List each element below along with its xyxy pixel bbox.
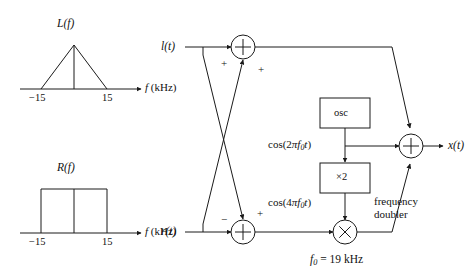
doubler-caption-line2: doubler — [374, 209, 408, 220]
plot-right-tick-min: −15 — [29, 237, 45, 248]
pilot-carrier-label: cos(2πf0t) — [268, 139, 311, 152]
plot-left-tick-max: 15 — [102, 93, 113, 104]
signal-label-right-input: r(t) — [161, 226, 176, 238]
frequency-note: f0 = 19 kHz — [310, 254, 363, 268]
signal-label-output: x(t) — [448, 140, 464, 152]
plot-left-axes — [20, 45, 141, 89]
adder-top-circle — [231, 35, 255, 59]
doubler-caption-line1: frequency — [374, 196, 418, 207]
plot-left-title: L(f) — [57, 18, 74, 30]
sign-top-right: + — [258, 64, 264, 75]
plot-right-tick-max: 15 — [102, 237, 113, 248]
sign-bottom-right: + — [257, 208, 263, 219]
oscillator-label: osc — [334, 108, 348, 119]
sign-top-left: + — [221, 58, 227, 69]
figure-canvas: L(f) −15 15 f (kHz) R(f) −15 15 f (kHz) … — [0, 0, 472, 279]
plot-right-axes — [20, 189, 141, 233]
adder-bottom-circle — [231, 220, 255, 244]
block-diagram-svg — [0, 0, 472, 279]
plot-right-title: R(f) — [57, 162, 75, 174]
subcarrier-label: cos(4πf0t) — [268, 197, 311, 210]
doubler-label: ×2 — [336, 172, 347, 183]
multiplier-circle — [333, 220, 357, 244]
plot-left-xlabel: f (kHz) — [145, 82, 176, 93]
wire-cross-left-to-bottom — [203, 47, 243, 219]
adder-output-circle — [399, 134, 423, 158]
wire-cross-right-to-top — [203, 60, 243, 232]
plot-left-tick-min: −15 — [29, 93, 45, 104]
signal-label-left-input: l(t) — [161, 41, 175, 53]
sign-bottom-left: − — [221, 214, 227, 225]
